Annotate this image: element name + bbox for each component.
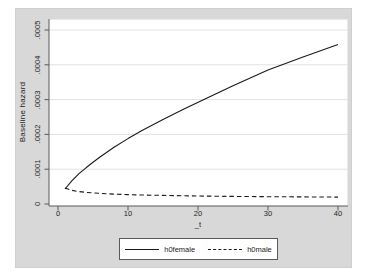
legend-item-h0female: h0female [125, 245, 195, 254]
x-tick-label-3: 30 [256, 209, 280, 218]
x-tick-label-1: 10 [116, 209, 140, 218]
x-axis-title: _t [186, 220, 210, 229]
x-tick-label-0: 0 [46, 209, 70, 218]
legend-label-h0female: h0female [164, 245, 195, 254]
solid-line-sample-icon [125, 249, 159, 250]
stata-graph-figure: Baseline hazard 0 .0001 .0002 .0003 .000… [15, 8, 352, 268]
dashed-line-sample-icon [208, 249, 242, 250]
y-tick-label-5: .0005 [33, 9, 43, 51]
legend-item-h0male: h0male [208, 245, 272, 254]
x-tick-label-2: 20 [186, 209, 210, 218]
series-h0male [65, 188, 338, 197]
page: Baseline hazard 0 .0001 .0002 .0003 .000… [0, 0, 366, 280]
x-tick-label-4: 40 [326, 209, 350, 218]
series-h0female [65, 45, 338, 189]
chart-canvas [16, 9, 353, 269]
y-axis-title: Baseline hazard [18, 52, 30, 172]
legend-label-h0male: h0male [247, 245, 272, 254]
legend: h0female h0male [119, 238, 278, 260]
